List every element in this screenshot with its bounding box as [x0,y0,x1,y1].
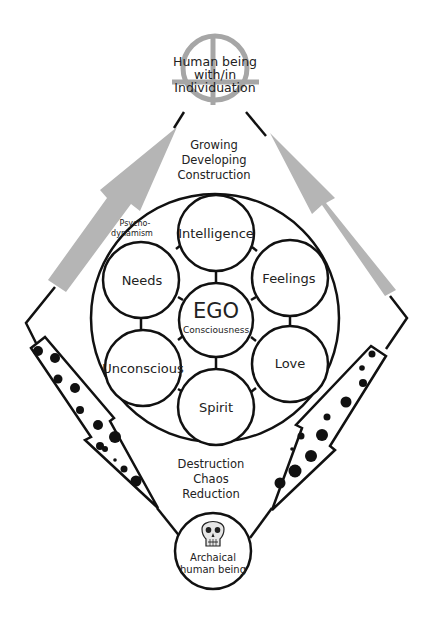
unconscious-label: Unconscious [102,361,184,376]
growth-label: Growing Developing Construction [177,138,250,182]
needs-label: Needs [122,273,163,288]
top-node-line-3: Individuation [174,80,255,95]
bottom-node-line-1: Archaical [190,552,236,563]
svg-text:Developing: Developing [181,153,246,167]
feelings-label: Feelings [262,271,315,286]
bottom-node-line-2: human being [180,564,246,575]
svg-text:Reduction: Reduction [182,487,240,501]
svg-text:Construction: Construction [177,168,250,182]
bottom-node-archaical: Archaical human being [175,513,251,589]
decline-label: Destruction Chaos Reduction [178,457,245,501]
svg-text:dynamism: dynamism [111,229,153,238]
individuation-diagram: Human being with/in Individuation Growin… [0,0,431,626]
love-label: Love [275,356,306,371]
spirit-label: Spirit [199,400,233,415]
top-node-individuation: Human being with/in Individuation [172,35,259,105]
svg-text:Chaos: Chaos [193,472,228,486]
svg-text:Growing: Growing [190,138,238,152]
intelligence-label: Intelligence [178,226,254,241]
ego-title: EGO [193,299,239,323]
svg-text:Destruction: Destruction [178,457,245,471]
svg-text:Psycho-: Psycho- [120,219,151,228]
ego-subtitle: Consciousness [183,325,249,335]
